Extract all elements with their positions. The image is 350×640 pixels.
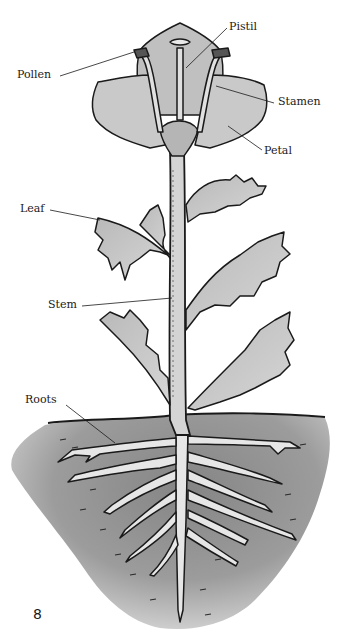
page-number: 8	[33, 606, 42, 622]
label-leaf: Leaf	[20, 202, 44, 215]
leaves	[95, 175, 294, 410]
flower	[92, 23, 266, 156]
stem-leader	[82, 298, 172, 306]
leaf-leader	[50, 210, 100, 220]
label-stem: Stem	[48, 298, 77, 311]
pollen-leader	[60, 52, 134, 76]
label-stamen: Stamen	[278, 95, 321, 108]
label-pollen: Pollen	[17, 68, 51, 81]
stem	[169, 150, 190, 435]
label-pistil: Pistil	[229, 20, 257, 33]
label-petal: Petal	[264, 144, 292, 157]
label-roots: Roots	[25, 393, 57, 406]
